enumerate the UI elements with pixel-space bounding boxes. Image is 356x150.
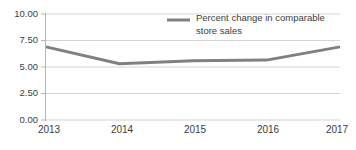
chart-canvas: 10.00 7.50 5.00 2.50 0.00 2013 2014 2015… <box>0 0 356 150</box>
y-tick-label: 2.50 <box>20 87 39 98</box>
y-tick-label: 10.00 <box>14 8 38 19</box>
line-chart: 10.00 7.50 5.00 2.50 0.00 2013 2014 2015… <box>0 0 356 150</box>
x-tick-label: 2014 <box>111 124 134 135</box>
y-tick-label: 0.00 <box>20 114 39 125</box>
legend-label-line2: store sales <box>196 25 242 36</box>
x-tick-label: 2016 <box>257 124 280 135</box>
x-tick-label: 2013 <box>38 124 61 135</box>
x-tick-label: 2015 <box>184 124 207 135</box>
y-tick-label: 5.00 <box>20 61 39 72</box>
legend-label-line1: Percent change in comparable <box>196 12 325 23</box>
x-tick-label: 2017 <box>326 124 349 135</box>
y-tick-label: 7.50 <box>20 34 39 45</box>
